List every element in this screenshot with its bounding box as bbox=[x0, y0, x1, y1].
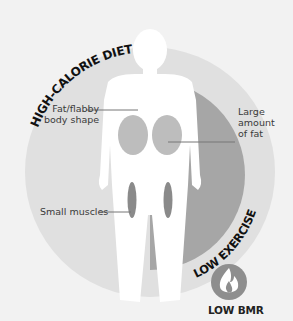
annotation-large-fat-line3: of fat bbox=[238, 128, 275, 139]
low-bmr-text: LOW BMR bbox=[208, 304, 264, 316]
annotation-small-muscles: Small muscles bbox=[40, 206, 108, 217]
diagram-graphic: HIGH-CALORIE DIET LOW EXERCISE bbox=[0, 0, 293, 321]
annotation-fat-body-line2: body shape bbox=[44, 114, 99, 125]
annotation-large-fat-line1: Large bbox=[238, 106, 275, 117]
fat-blob-right bbox=[152, 115, 182, 155]
muscle-left bbox=[128, 182, 137, 218]
annotation-fat-body-line1: Fat/flabby bbox=[44, 103, 99, 114]
annotation-small-muscles-text: Small muscles bbox=[40, 206, 108, 217]
muscle-right bbox=[164, 182, 173, 218]
annotation-large-fat-line2: amount bbox=[238, 117, 275, 128]
fat-blob-left bbox=[118, 115, 148, 155]
annotation-large-fat: Large amount of fat bbox=[238, 106, 275, 139]
low-bmr-label: LOW BMR bbox=[208, 304, 264, 316]
bmr-diagram: HIGH-CALORIE DIET LOW EXERCISE Fat/flabb… bbox=[0, 0, 293, 321]
annotation-fat-body: Fat/flabby body shape bbox=[44, 103, 99, 125]
